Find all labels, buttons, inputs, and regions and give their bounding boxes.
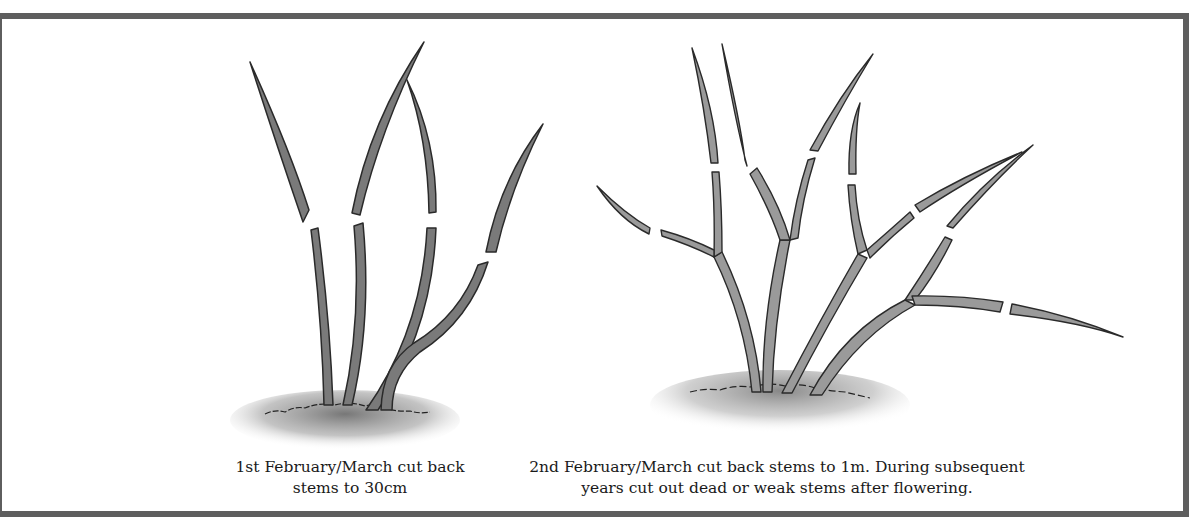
caption-year-1-line1: 1st February/March cut back	[205, 457, 495, 478]
plant-year-1	[230, 42, 543, 450]
plant-year-2	[597, 44, 1123, 440]
caption-year-1: 1st February/March cut back stems to 30c…	[205, 457, 495, 499]
caption-year-2-line1: 2nd February/March cut back stems to 1m.…	[497, 457, 1057, 478]
caption-year-2-line2: years cut out dead or weak stems after f…	[497, 478, 1057, 499]
caption-year-2: 2nd February/March cut back stems to 1m.…	[497, 457, 1057, 499]
pruning-illustration	[0, 0, 1204, 531]
caption-year-1-line2: stems to 30cm	[205, 478, 495, 499]
